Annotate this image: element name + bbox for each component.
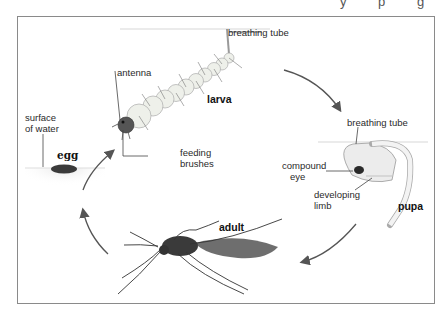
adult-stage-label: adult (219, 221, 244, 233)
arrow-adult-to-egg-icon (83, 210, 108, 254)
surface-label-line1: surface (25, 112, 56, 123)
pupa-stage-label: pupa (398, 200, 423, 212)
egg-icon (51, 165, 77, 174)
adult-mosquito-illustration (118, 219, 282, 294)
developing-limb-label-line2: limb (314, 200, 331, 211)
feeding-brushes-leader-line (123, 130, 148, 156)
surface-label-line2: of water (25, 123, 59, 134)
antenna-label: antenna (117, 67, 151, 78)
arrow-larva-to-pupa-icon (284, 70, 340, 110)
larva-breathing-tube-label: breathing tube (228, 27, 289, 38)
feeding-brushes-label-line1: feeding (180, 147, 211, 158)
pupa-illustration (344, 143, 411, 225)
larva-stage-label: larva (207, 93, 232, 105)
compound-eye-label-line1: compound (282, 160, 326, 171)
arrow-pupa-to-adult-icon (302, 224, 356, 262)
egg-stage-label: egg (57, 149, 78, 161)
antenna-leader-line (115, 71, 120, 120)
larva-illustration (112, 29, 262, 140)
compound-eye-label-line2: eye (290, 171, 305, 182)
pupa-breathing-tube-label: breathing tube (347, 117, 408, 128)
developing-limb-label-line1: developing (314, 189, 360, 200)
feeding-brushes-label-line2: brushes (180, 158, 214, 169)
